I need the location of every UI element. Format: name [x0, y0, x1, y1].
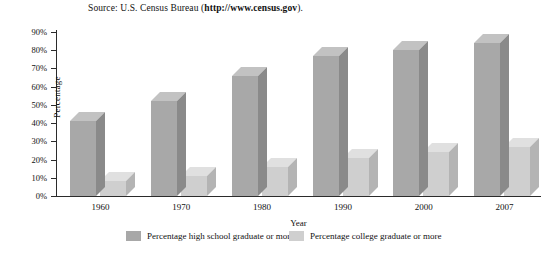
legend-swatch — [126, 231, 141, 241]
legend-swatch — [289, 231, 304, 241]
bar-side-face — [500, 34, 509, 196]
bar-side-face — [369, 149, 378, 196]
x-tick-label: 1980 — [227, 202, 297, 212]
source-note-prefix: Source: U.S. Census Bureau ( — [88, 3, 204, 13]
y-axis-title: Percentage — [52, 52, 62, 142]
x-tick-label: 1970 — [146, 202, 216, 212]
y-tick-mark — [51, 68, 57, 69]
y-tick-label: 40% — [13, 118, 47, 128]
x-tick-label: 1990 — [308, 202, 378, 212]
legend-item: Percentage college graduate or more — [289, 228, 441, 244]
chart-legend: Percentage high school graduate or moreP… — [0, 228, 560, 250]
bar-front-face — [474, 43, 500, 196]
x-tick-label: 1960 — [65, 202, 135, 212]
bar-front-face — [313, 56, 339, 196]
y-tick-label: 50% — [13, 100, 47, 110]
y-tick-mark — [51, 141, 57, 142]
bar-side-face — [177, 92, 186, 196]
bar-front-face — [393, 50, 419, 196]
bar-front-face — [151, 101, 177, 196]
y-tick-label: 20% — [13, 155, 47, 165]
y-tick-mark — [51, 178, 57, 179]
legend-label: Percentage high school graduate or more — [147, 231, 294, 241]
y-tick-mark — [51, 50, 57, 51]
source-note-suffix: ). — [297, 3, 303, 13]
legend-item: Percentage high school graduate or more — [126, 228, 294, 244]
bar-side-face — [530, 138, 539, 196]
y-tick-mark — [51, 87, 57, 88]
bar-side-face — [339, 47, 348, 196]
y-tick-label: 90% — [13, 27, 47, 37]
plot-area: Percentage 0%10%20%30%40%50%60%70%80%90%… — [56, 30, 541, 197]
x-tick-label: 2000 — [389, 202, 459, 212]
x-tick-label: 2007 — [470, 202, 540, 212]
legend-label: Percentage college graduate or more — [310, 231, 441, 241]
bar — [313, 47, 339, 196]
bar-chart-figure: Source: U.S. Census Bureau (http://www.c… — [0, 0, 560, 257]
y-tick-label: 80% — [13, 45, 47, 55]
y-tick-label: 70% — [13, 63, 47, 73]
source-note: Source: U.S. Census Bureau (http://www.c… — [88, 3, 303, 13]
source-note-url: http://www.census.gov — [204, 3, 297, 13]
x-axis-title: Year — [56, 218, 541, 228]
y-tick-label: 60% — [13, 82, 47, 92]
x-axis-line — [56, 196, 541, 197]
y-tick-mark — [51, 160, 57, 161]
bar-side-face — [449, 143, 458, 196]
bar-side-face — [419, 41, 428, 196]
y-tick-mark — [51, 105, 57, 106]
y-tick-mark — [51, 196, 57, 197]
y-tick-label: 10% — [13, 173, 47, 183]
bar — [151, 92, 177, 196]
bar — [70, 112, 96, 196]
y-tick-mark — [51, 123, 57, 124]
bar — [232, 67, 258, 196]
y-tick-mark — [51, 32, 57, 33]
bar — [393, 41, 419, 196]
bar-front-face — [70, 121, 96, 196]
bar — [474, 34, 500, 196]
y-tick-label: 30% — [13, 136, 47, 146]
bar-side-face — [258, 67, 267, 196]
y-tick-label: 0% — [13, 191, 47, 201]
bar-front-face — [232, 76, 258, 196]
bar-side-face — [96, 112, 105, 196]
